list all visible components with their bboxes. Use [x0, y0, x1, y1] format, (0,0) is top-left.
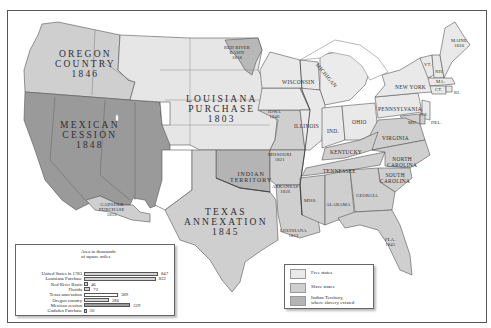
chart-bar-label: Gadsden Purchase: [48, 308, 83, 313]
chart-bar: [84, 309, 87, 313]
del-label: DEL.: [431, 121, 442, 126]
louisiana-state-year: 1812: [280, 234, 307, 239]
legend-item-free-states: Free states: [290, 269, 372, 280]
slave-states-swatch: [290, 283, 306, 293]
chart-bar: [84, 277, 156, 281]
florida-label: FLA.1845: [385, 238, 396, 248]
map-legend: Free states Slave states Indian Territor…: [284, 264, 374, 309]
nh-label: NH.: [435, 70, 443, 75]
georgia-label: GEORGIA: [356, 194, 378, 199]
vt-label: VT.: [424, 63, 432, 68]
chart-bar: [84, 303, 130, 307]
new-york-label: NEW YORK: [395, 85, 426, 91]
free-states-swatch: [290, 269, 306, 279]
legend-label-indian: Indian Territory, where slavery existed: [311, 295, 354, 306]
legend-label-free: Free states: [311, 270, 332, 275]
texas-year: 1845: [184, 228, 268, 238]
indiana-state: [322, 106, 345, 148]
arkansas-label: ARKANSAS1836: [272, 185, 298, 195]
south-carolina-label: SOUTHCAROLINA: [380, 173, 410, 184]
indian-territory-swatch: [290, 296, 306, 306]
chart-bar: [84, 272, 158, 276]
red-river-year: 1818: [224, 56, 250, 61]
alabama-label: ALABAMA: [326, 203, 351, 208]
maine-year: 1820: [451, 44, 467, 49]
miss-label: MISS.: [304, 199, 317, 204]
fla-year: 1845: [385, 243, 396, 248]
indian-territory-label: INDIAN TERRITORY: [230, 171, 272, 184]
red-river-basin-label: RED RIVER BASIN 1818: [224, 46, 250, 60]
gadsden-year: 1853: [99, 213, 125, 218]
legend-label-indian-line2: where slavery existed: [311, 300, 354, 305]
chart-title-line2: of square miles: [81, 254, 116, 259]
chart-bar-row: Gadsden Purchase30: [16, 308, 176, 313]
missouri-label: MISSOURI1821: [268, 153, 292, 163]
maine-state: [440, 22, 470, 78]
ma-label: MA.: [436, 80, 445, 85]
tennessee-label: TENNESSEE: [323, 169, 356, 175]
md-label: MD.: [408, 121, 417, 126]
rhode-island-state: [446, 86, 452, 92]
kentucky-label: KENTUCKY: [330, 150, 362, 156]
illinois-label: ILLINOIS: [294, 124, 319, 130]
ind-label: IND.: [327, 129, 339, 135]
gadsden-purchase-label: GADSDEN PURCHASE 1853: [99, 203, 125, 217]
louisiana-purchase-label: LOUISIANA PURCHASE 1803: [186, 95, 258, 125]
iowa-label: IOWA1846: [268, 110, 281, 120]
chart-bar-value: 30: [90, 308, 95, 313]
missouri-year: 1821: [268, 158, 292, 163]
north-carolina-label: NORTHCAROLINA: [387, 157, 417, 168]
texas-annexation-label: TEXAS ANNEXATION 1845: [184, 208, 268, 238]
chart-bar: [84, 293, 118, 297]
legend-label-slave: Slave states: [311, 284, 334, 289]
oregon-country-label: OREGON COUNTRY 1846: [55, 50, 116, 80]
legend-item-slave-states: Slave states: [290, 283, 372, 294]
chart-bar: [84, 287, 90, 291]
pennsylvania-label: PENNSYLVANIA: [378, 107, 422, 113]
chart-bar: [84, 298, 109, 302]
louisiana-year: 1803: [186, 115, 258, 125]
mexican-cession-label: MEXICAN CESSION 1848: [60, 121, 120, 151]
sc-name-line2: CAROLINA: [380, 179, 410, 185]
mexican-cession-region: [24, 92, 170, 210]
indian-territory-line2: TERRITORY: [230, 177, 272, 183]
maine-label: MAINE1820: [451, 39, 467, 49]
wisconsin-label: WISCONSIN: [282, 80, 315, 86]
chart-title: Area in thousands of square miles: [81, 249, 116, 260]
iowa-year: 1846: [268, 115, 281, 120]
nc-name-line2: CAROLINA: [387, 163, 417, 169]
arkansas-year: 1836: [272, 190, 298, 195]
mexican-year: 1848: [60, 141, 120, 151]
area-bar-chart-inset: Area in thousands of square miles United…: [15, 244, 175, 316]
ct-label: CT.: [435, 88, 442, 93]
ohio-label: OHIO: [352, 120, 367, 126]
louisiana-state-label: LOUISIANA1812: [280, 229, 307, 239]
ri-label: RI.: [454, 91, 460, 96]
oregon-year: 1846: [55, 70, 116, 80]
nj-label: N.J.: [420, 113, 428, 118]
virginia-label: VIRGINIA: [382, 136, 409, 142]
chart-bar: [84, 282, 88, 286]
legend-item-indian-territory: Indian Territory, where slavery existed: [290, 296, 372, 307]
